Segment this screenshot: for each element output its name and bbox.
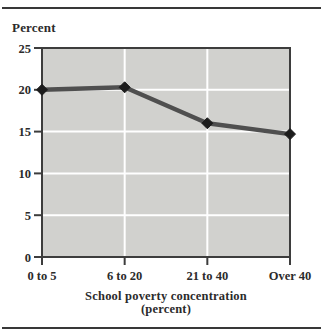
y-tick-label-20: 20: [19, 83, 32, 97]
x-tick-label-0-to-5: 0 to 5: [27, 269, 56, 283]
x-tick-label-21-to-40: 21 to 40: [186, 269, 228, 283]
plot-background: [42, 48, 290, 257]
x-axis-title-line2: (percent): [5, 303, 323, 316]
y-tick-label-0: 0: [25, 251, 31, 265]
y-tick-label-5: 5: [25, 209, 31, 223]
y-tick-label-15: 15: [19, 125, 32, 139]
bottom-rule: [2, 327, 321, 329]
x-tick-label-over-40: Over 40: [269, 269, 311, 283]
x-axis-title: School poverty concentration (percent): [5, 290, 323, 316]
line-chart-svg: 05101520250 to 56 to 2021 to 40Over 40: [0, 0, 323, 334]
x-tick-label-6-to-20: 6 to 20: [107, 269, 142, 283]
y-tick-label-10: 10: [19, 167, 32, 181]
y-tick-label-25: 25: [19, 42, 32, 56]
